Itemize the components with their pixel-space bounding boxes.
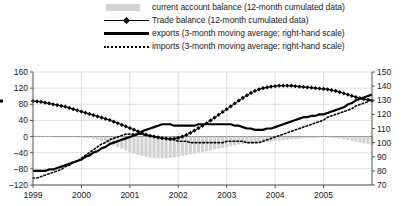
chart-svg: –120–80–40040801201607080901001101201301… (0, 56, 414, 206)
legend-item-trade-balance: Trade balance (12-month cumulated data) (104, 14, 414, 27)
svg-text:0: 0 (23, 132, 28, 142)
legend-label: exports (3-month moving average; right-h… (152, 27, 345, 40)
svg-text:2002: 2002 (169, 190, 188, 200)
legend-item-current-account-balance: current account balance (12-month cumula… (104, 1, 414, 14)
svg-text:2004: 2004 (266, 190, 285, 200)
svg-text:110: 110 (377, 124, 391, 134)
svg-text:120: 120 (377, 109, 391, 119)
gray-band-swatch-icon (104, 2, 149, 13)
svg-text:140: 140 (377, 81, 391, 91)
legend-label: imports (3-month moving average; right-h… (152, 40, 345, 53)
svg-text:100: 100 (377, 138, 391, 148)
svg-text:90: 90 (377, 152, 387, 162)
line-with-marker-swatch-icon (104, 15, 149, 26)
legend-label: current account balance (12-month cumula… (152, 1, 345, 14)
chart-page: current account balance (12-month cumula… (0, 0, 414, 206)
svg-text:2005: 2005 (314, 190, 333, 200)
dotted-line-swatch-icon (104, 41, 149, 52)
svg-text:–120: –120 (9, 180, 28, 190)
legend-item-imports: imports (3-month moving average; right-h… (104, 40, 414, 53)
legend-item-exports: exports (3-month moving average; right-h… (104, 27, 414, 40)
svg-text:–40: –40 (14, 148, 28, 158)
svg-text:–80: –80 (14, 164, 28, 174)
svg-text:40: 40 (19, 115, 29, 125)
svg-text:160: 160 (14, 67, 28, 77)
svg-text:1999: 1999 (24, 190, 43, 200)
svg-text:80: 80 (19, 99, 29, 109)
svg-text:80: 80 (377, 166, 387, 176)
thick-line-swatch-icon (104, 28, 149, 39)
svg-text:2003: 2003 (217, 190, 236, 200)
legend-label: Trade balance (12-month cumulated data) (152, 14, 309, 27)
svg-text:150: 150 (377, 67, 391, 77)
chart-plot-area: –120–80–40040801201607080901001101201301… (0, 56, 414, 206)
svg-text:2001: 2001 (120, 190, 139, 200)
svg-text:120: 120 (14, 83, 28, 93)
svg-text:130: 130 (377, 95, 391, 105)
svg-text:70: 70 (377, 180, 387, 190)
svg-text:2000: 2000 (72, 190, 91, 200)
chart-legend: current account balance (12-month cumula… (104, 1, 414, 53)
